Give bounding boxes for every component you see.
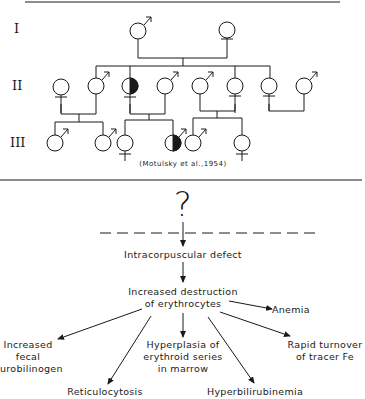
intracorpuscular-defect-label: Intracorpuscular defect (113, 249, 253, 261)
outcome-reticulocytosis: Reticulocytosis (60, 386, 150, 398)
citation: (Motulsky et al.,1954) (133, 158, 233, 170)
outcome-tracer-line1: Rapid turnover (285, 339, 365, 351)
gen-I-marriage-line (138, 39, 227, 58)
gen-III-3-female (117, 135, 133, 161)
outcome-tracer-line2: of tracer Fe (285, 351, 365, 363)
gen-II-4-male (157, 72, 178, 94)
generation-label-II: II (12, 78, 22, 93)
gen-I-female (219, 22, 235, 50)
gen-III-2-male (95, 129, 116, 151)
outcome-anemia: Anemia (272, 304, 312, 316)
destruction-label-line2: of erythrocytes (113, 298, 253, 310)
gen-III-5-male (185, 129, 206, 151)
destruction-label-line1: Increased destruction (113, 286, 253, 298)
gen-III-1-male (47, 129, 68, 151)
outcome-hyperplasia-line2: erythroid series (138, 351, 228, 363)
gen-I-male (130, 17, 151, 39)
outcome-fecal-line1: Increased (0, 339, 56, 351)
outcome-fecal-line3: urobilinogen (0, 363, 56, 375)
gen-II-5-male (192, 72, 213, 94)
outcome-fecal-line2: fecal (0, 351, 56, 363)
arrow-to-fecal (58, 309, 142, 339)
outcome-hyperbilirubinemia: Hyperbilirubinemia (205, 386, 305, 398)
marriage-II-7-8 (269, 94, 304, 111)
gen-II-2-male (88, 72, 109, 94)
marriage-II-5-6 (200, 94, 235, 111)
outcome-hyperplasia-line1: Hyperplasia of (138, 339, 228, 351)
generation-label-I: I (14, 21, 19, 36)
generation-label-III: III (10, 135, 25, 150)
gen-III-6-female (234, 135, 250, 161)
unknown-cause-question-mark: ? (168, 186, 198, 222)
gen-III-4-male-affected (165, 129, 186, 151)
outcome-hyperplasia-line3: in marrow (138, 363, 228, 375)
gen-II-8-male (296, 72, 317, 94)
